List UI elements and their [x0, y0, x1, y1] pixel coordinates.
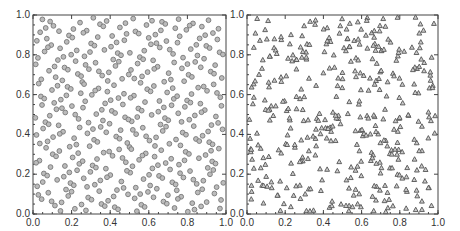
data-point — [298, 45, 303, 49]
data-point — [289, 161, 294, 165]
data-point — [84, 208, 89, 213]
data-point — [353, 68, 358, 72]
data-point — [82, 82, 87, 87]
data-point — [216, 146, 221, 151]
data-point — [206, 129, 211, 134]
data-point — [433, 113, 438, 117]
data-point — [56, 123, 61, 128]
data-point — [109, 44, 114, 49]
data-point — [161, 105, 166, 110]
data-point — [128, 95, 133, 100]
data-point — [318, 166, 323, 170]
data-point — [344, 27, 349, 31]
data-point — [349, 165, 354, 169]
data-point — [390, 203, 395, 207]
data-point — [256, 178, 261, 182]
data-point — [126, 117, 131, 122]
data-point — [198, 101, 203, 106]
data-point — [387, 197, 392, 201]
data-point — [64, 39, 69, 44]
data-point — [249, 197, 254, 201]
data-point — [164, 201, 169, 206]
data-point — [184, 27, 189, 32]
data-point — [404, 206, 409, 210]
data-point — [374, 161, 379, 165]
data-point — [174, 188, 179, 193]
data-point — [323, 117, 328, 121]
data-point — [359, 27, 364, 31]
data-point — [120, 102, 125, 107]
data-point — [57, 131, 62, 136]
data-point — [392, 127, 397, 131]
data-point — [185, 62, 190, 67]
data-point — [412, 82, 417, 86]
data-point — [51, 135, 56, 140]
data-point — [337, 31, 342, 35]
data-point — [331, 110, 336, 114]
data-point — [398, 124, 403, 128]
data-point — [214, 185, 219, 190]
x-tick-label: 0.2 — [278, 217, 292, 228]
data-point — [74, 48, 79, 53]
data-point — [92, 43, 97, 48]
data-point — [432, 21, 437, 25]
data-point — [192, 113, 197, 118]
data-point — [253, 78, 258, 82]
data-point — [279, 79, 284, 83]
data-point — [365, 46, 370, 50]
data-point — [359, 173, 364, 177]
data-point — [260, 66, 265, 70]
data-point — [57, 29, 62, 34]
data-point — [141, 57, 146, 62]
data-point — [412, 137, 417, 141]
data-point — [39, 77, 44, 82]
data-point — [269, 179, 274, 183]
data-point — [338, 121, 343, 125]
data-point — [314, 83, 319, 87]
data-point — [71, 27, 76, 32]
y-tick-label: 0.2 — [16, 168, 30, 179]
data-point — [64, 93, 69, 98]
data-point — [303, 192, 308, 196]
data-point — [412, 177, 417, 181]
data-point — [420, 124, 425, 128]
data-point — [420, 199, 425, 203]
data-point — [70, 155, 75, 160]
data-point — [45, 139, 50, 144]
data-point — [129, 68, 134, 73]
data-point — [58, 97, 63, 102]
data-point — [58, 209, 63, 214]
data-point — [180, 66, 185, 71]
data-point — [285, 133, 290, 137]
data-point — [255, 131, 260, 135]
data-point — [198, 65, 203, 70]
x-tick-label: 0.8 — [393, 217, 407, 228]
data-point — [151, 84, 156, 89]
data-point — [397, 115, 402, 119]
data-point — [348, 175, 353, 179]
data-point — [108, 98, 113, 103]
data-point — [383, 107, 388, 111]
data-point — [192, 207, 197, 212]
data-point — [286, 106, 291, 110]
data-point — [263, 27, 268, 31]
data-point — [340, 70, 345, 74]
data-point — [357, 42, 362, 46]
data-point — [370, 194, 375, 198]
data-point — [353, 187, 358, 191]
data-point — [61, 54, 66, 59]
data-point — [70, 104, 75, 109]
data-point — [98, 178, 103, 183]
data-point — [91, 127, 96, 132]
data-point — [153, 32, 158, 37]
data-point — [372, 28, 377, 32]
data-point — [372, 35, 377, 39]
data-point — [306, 117, 311, 121]
data-point — [379, 165, 384, 169]
data-point — [142, 205, 147, 210]
data-point — [301, 118, 306, 122]
data-point — [130, 127, 135, 132]
data-point — [76, 117, 81, 122]
data-point — [113, 111, 118, 116]
data-point — [164, 124, 169, 129]
